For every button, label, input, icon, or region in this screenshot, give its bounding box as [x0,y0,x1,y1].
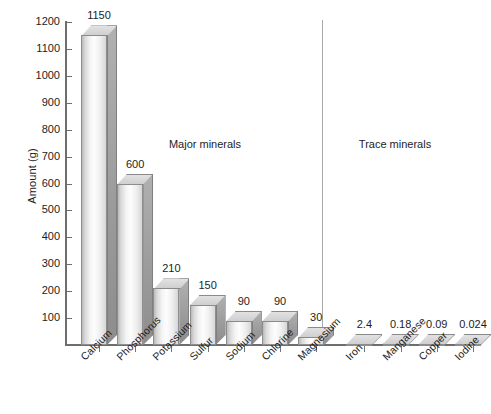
bar-value-label: 90 [255,295,305,307]
group-divider-line [322,20,323,345]
bar-top-face [346,334,382,345]
bar-side-face [107,25,117,345]
y-axis-tick [67,237,72,238]
y-axis-tick-label: 1000 [16,70,60,81]
bar-front-face [117,184,143,346]
group-label-trace-minerals: Trace minerals [340,138,450,150]
y-axis-tick-label: 900 [16,97,60,108]
bar-calcium [81,25,117,345]
bar-value-label: 1150 [74,9,124,21]
bar-value-label: 600 [110,158,160,170]
mineral-amount-bar-chart: Amount (g) 10020030040050060070080090010… [0,0,491,414]
y-axis-tick [67,76,72,77]
y-axis-tick-label: 500 [16,204,60,215]
y-axis-tick-label: 400 [16,231,60,242]
bar-value-label: 150 [183,279,233,291]
y-axis-tick-label: 600 [16,178,60,189]
y-axis-tick [67,291,72,292]
y-axis-tick [67,318,72,319]
bar-front-face [81,35,107,345]
y-axis-tick-label: 700 [16,151,60,162]
group-label-major-minerals: Major minerals [150,138,260,150]
y-axis-tick [67,130,72,131]
y-axis-tick-label: 1200 [16,16,60,27]
y-axis-tick [67,210,72,211]
y-axis-tick-label: 300 [16,258,60,269]
bar-value-label: 210 [146,262,196,274]
y-axis-tick [67,264,72,265]
y-axis-tick [67,184,72,185]
y-axis-tick [67,22,72,23]
y-axis-tick-label: 1100 [16,43,60,54]
y-axis-tick-label: 800 [16,124,60,135]
y-axis-tick-label: 200 [16,285,60,296]
y-axis-tick [67,49,72,50]
y-axis-tick [67,103,72,104]
bar-value-label: 0.024 [448,318,491,330]
y-axis-tick-label: 100 [16,312,60,323]
y-axis-tick [67,157,72,158]
